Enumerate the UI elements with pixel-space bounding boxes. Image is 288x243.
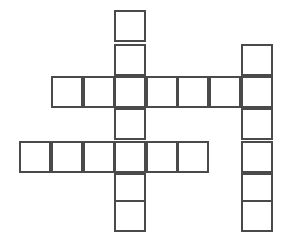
cell-letter	[243, 110, 271, 138]
cell-c3-r6[interactable]	[114, 200, 146, 232]
cell-c5-r2[interactable]	[177, 76, 209, 108]
cell-letter	[116, 46, 144, 74]
cell-letter	[243, 143, 271, 171]
cell-letter	[85, 78, 113, 106]
cell-letter	[85, 143, 113, 171]
cell-c1-r4[interactable]	[51, 141, 83, 173]
cell-letter	[116, 12, 144, 40]
cell-c5-r4[interactable]	[177, 141, 209, 173]
cell-letter	[148, 143, 176, 171]
crossword-grid[interactable]	[0, 0, 288, 243]
cell-letter	[116, 78, 144, 106]
cell-letter	[179, 78, 207, 106]
cell-letter	[243, 78, 271, 106]
cell-letter	[243, 202, 271, 230]
cell-c2-r4[interactable]	[83, 141, 115, 173]
cell-letter	[116, 175, 144, 203]
cell-c3-r1[interactable]	[114, 44, 146, 76]
cell-letter	[243, 175, 271, 203]
cell-c7-r4[interactable]	[241, 141, 273, 173]
cell-letter	[116, 202, 144, 230]
cell-c7-r6[interactable]	[241, 200, 273, 232]
crossword-puzzle	[0, 0, 288, 243]
cell-c2-r2[interactable]	[83, 76, 115, 108]
cell-c7-r3[interactable]	[241, 108, 273, 140]
cell-c6-r2[interactable]	[209, 76, 241, 108]
cell-letter	[53, 143, 81, 171]
cell-letter	[179, 143, 207, 171]
cell-letter	[243, 46, 271, 74]
cell-c1-r2[interactable]	[51, 76, 83, 108]
cell-letter	[21, 143, 49, 171]
cell-c4-r2[interactable]	[146, 76, 178, 108]
cell-c7-r1[interactable]	[241, 44, 273, 76]
cell-letter	[148, 78, 176, 106]
cell-letter	[116, 110, 144, 138]
cell-c7-r2[interactable]	[241, 76, 273, 108]
cell-c3-r3[interactable]	[114, 108, 146, 140]
cell-letter	[211, 78, 239, 106]
cell-letter	[116, 143, 144, 171]
cell-letter	[53, 78, 81, 106]
cell-c3-r0[interactable]	[114, 10, 146, 42]
cell-c0-r4[interactable]	[19, 141, 51, 173]
cell-c3-r2[interactable]	[114, 76, 146, 108]
cell-c3-r4[interactable]	[114, 141, 146, 173]
cell-c4-r4[interactable]	[146, 141, 178, 173]
